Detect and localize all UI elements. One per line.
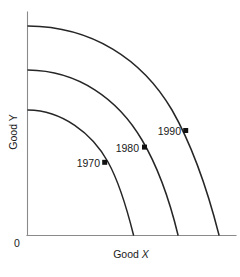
chart-canvas: 1970 1980 1990 0 Good X Good Y	[0, 0, 240, 277]
data-point-marker-1970	[102, 160, 107, 165]
x-axis-title-prefix: Good	[113, 248, 142, 260]
ppf-chart: 1970 1980 1990 0 Good X Good Y	[0, 0, 240, 277]
data-point-marker-1990	[183, 128, 188, 133]
ppf-curve-1970	[28, 110, 134, 235]
x-axis-title-variable: X	[141, 248, 150, 260]
y-axis-title-prefix: Good	[7, 121, 19, 149]
series-label-1980: 1980	[116, 142, 140, 154]
series-label-1970: 1970	[77, 157, 101, 169]
data-point-marker-1980	[142, 145, 147, 150]
origin-label: 0	[14, 237, 20, 249]
x-axis-title: Good X	[113, 248, 150, 260]
ppf-curve-1990	[28, 26, 219, 235]
y-axis-title-variable: Y	[7, 114, 19, 121]
y-axis-title: Good Y	[7, 114, 19, 149]
series-label-1990: 1990	[158, 125, 182, 137]
